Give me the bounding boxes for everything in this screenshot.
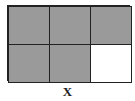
grid-cell-shaded (8, 44, 50, 83)
diagram-label: X (0, 84, 135, 100)
grid-cell-shaded (90, 6, 132, 45)
grid-cell-shaded (49, 6, 91, 45)
grid-cell-empty (90, 44, 132, 83)
grid-cell-shaded (8, 6, 50, 45)
grid-cell-shaded (49, 44, 91, 83)
fraction-grid (7, 5, 130, 81)
